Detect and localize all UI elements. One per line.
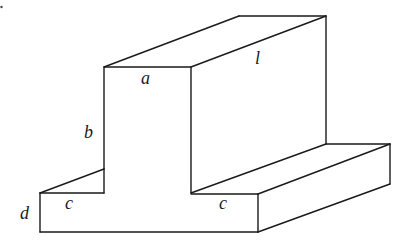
right-foot-inner-receding-edge [191, 144, 326, 193]
right-foot-outer-receding-edge [258, 144, 390, 194]
label-a: a [141, 68, 150, 88]
label-d: d [20, 203, 30, 223]
right-foot-bottom-receding-edge [258, 184, 390, 232]
label-l: l [255, 48, 260, 68]
label-c-right: c [219, 193, 227, 213]
footing [40, 144, 390, 232]
stray-mark [0, 6, 2, 8]
wall-top-left-receding-edge [104, 16, 239, 67]
left-foot-slant-edge [40, 169, 104, 193]
label-b: b [84, 122, 93, 142]
inverted-t-prism-diagram: a l b c c d [0, 0, 397, 249]
wall-upright [104, 16, 326, 193]
label-c-left: c [65, 193, 73, 213]
dimension-labels: a l b c c d [20, 48, 260, 223]
